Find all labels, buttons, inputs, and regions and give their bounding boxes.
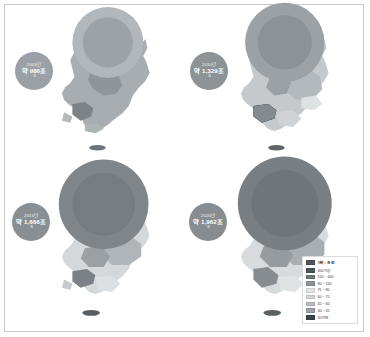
callout-year: 2010년 bbox=[202, 63, 216, 68]
callout-year: 2020년 bbox=[201, 214, 215, 219]
map-panel-bottom-left[interactable]: 2015년 약 1,666조 원 bbox=[5, 168, 184, 331]
capital-region-core bbox=[258, 16, 312, 70]
legend-item[interactable]: 90 ~ 150 bbox=[306, 281, 354, 287]
south-korea-map bbox=[223, 8, 359, 164]
callout-year: 2015년 bbox=[24, 214, 38, 219]
callout-year: 2005년 bbox=[27, 63, 41, 68]
legend-swatch bbox=[306, 308, 315, 313]
figure-frame: 2005년 약 986조 원 bbox=[4, 4, 364, 332]
legend-label: 400 이상 bbox=[318, 268, 331, 273]
legend-label: 30 미만 bbox=[318, 315, 329, 320]
capital-region-core bbox=[83, 18, 133, 68]
island-marker bbox=[89, 145, 106, 150]
legend-swatch bbox=[306, 315, 315, 320]
legend-item[interactable]: 150 ~ 400 bbox=[306, 274, 354, 280]
callout-unit: 원 bbox=[208, 75, 211, 79]
map-legend[interactable]: 단위 : 조 원 400 이상 150 ~ 400 90 ~ 150 75 ~ … bbox=[302, 256, 358, 324]
legend-title-row: 단위 : 조 원 bbox=[306, 260, 354, 266]
legend-title-swatch bbox=[306, 260, 315, 265]
legend-item[interactable]: 60 ~ 75 bbox=[306, 294, 354, 300]
island-marker bbox=[83, 310, 101, 316]
map-container bbox=[5, 168, 184, 331]
legend-item[interactable]: 45 ~ 60 bbox=[306, 301, 354, 307]
legend-item[interactable]: 30 미만 bbox=[306, 314, 354, 320]
map-panel-top-left[interactable]: 2005년 약 986조 원 bbox=[5, 5, 184, 168]
legend-swatch bbox=[306, 288, 315, 293]
legend-item[interactable]: 30 ~ 45 bbox=[306, 308, 354, 314]
legend-label: 75 ~ 90 bbox=[318, 288, 330, 292]
legend-label: 30 ~ 45 bbox=[318, 309, 330, 313]
legend-swatch bbox=[306, 281, 315, 286]
panel-callout-bubble[interactable]: 2015년 약 1,666조 원 bbox=[12, 203, 50, 241]
map-panel-top-right[interactable]: 2010년 약 1,329조 원 bbox=[184, 5, 363, 168]
legend-label: 150 ~ 400 bbox=[318, 275, 334, 279]
south-korea-map bbox=[44, 8, 180, 164]
legend-title: 단위 : 조 원 bbox=[318, 260, 334, 265]
legend-swatch bbox=[306, 295, 315, 300]
legend-item[interactable]: 75 ~ 90 bbox=[306, 288, 354, 294]
panel-callout-bubble[interactable]: 2010년 약 1,329조 원 bbox=[190, 52, 228, 90]
legend-label: 90 ~ 150 bbox=[318, 282, 332, 286]
legend-swatch bbox=[306, 302, 315, 307]
callout-unit: 원 bbox=[30, 226, 33, 230]
south-korea-map bbox=[44, 171, 180, 327]
legend-swatch bbox=[306, 268, 315, 273]
capital-region-core bbox=[73, 173, 136, 236]
panel-callout-bubble[interactable]: 2005년 약 986조 원 bbox=[15, 52, 53, 90]
panel-callout-bubble[interactable]: 2020년 약 1,962조 원 bbox=[189, 203, 227, 241]
legend-swatch bbox=[306, 275, 315, 280]
callout-unit: 원 bbox=[33, 75, 36, 79]
island-marker bbox=[264, 310, 282, 316]
island-marker bbox=[268, 145, 285, 150]
legend-item[interactable]: 400 이상 bbox=[306, 268, 354, 274]
legend-label: 45 ~ 60 bbox=[318, 302, 330, 306]
capital-region-core bbox=[252, 170, 319, 237]
legend-label: 60 ~ 75 bbox=[318, 295, 330, 299]
callout-unit: 원 bbox=[207, 226, 210, 230]
